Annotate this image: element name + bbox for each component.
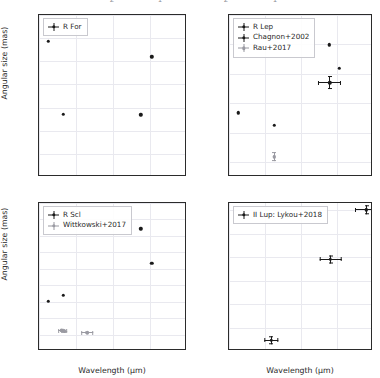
marker-dot <box>269 339 272 342</box>
data-point <box>329 82 330 83</box>
gridline-horizontal <box>229 15 371 16</box>
data-point <box>274 125 275 126</box>
gridline-horizontal <box>39 318 185 319</box>
y-axis-tick <box>38 61 39 62</box>
marker-dot <box>328 81 331 84</box>
cropped-tick-label: 1 <box>273 0 277 4</box>
data-point <box>339 68 340 69</box>
error-cap-bottom <box>329 262 333 263</box>
y-axis-tick <box>38 203 39 204</box>
legend-marker-icon <box>238 44 249 53</box>
y-axis-tick <box>38 219 39 220</box>
data-point <box>87 332 88 333</box>
gridline-horizontal <box>39 15 185 16</box>
data-point <box>274 156 275 157</box>
legend-r-for[interactable]: R For <box>43 18 88 36</box>
marker-dot <box>329 258 332 261</box>
legend-item[interactable]: Wittkowski+2017 <box>48 220 126 231</box>
x-axis-tick <box>150 349 151 350</box>
error-cap-left <box>355 208 356 212</box>
y-axis-tick <box>228 162 229 163</box>
data-point <box>140 228 141 229</box>
legend-item[interactable]: R For <box>48 22 82 33</box>
legend-item[interactable]: R Scl <box>48 210 126 221</box>
gridline-horizontal <box>39 108 185 109</box>
error-cap-top <box>329 255 333 256</box>
marker-dot <box>61 293 64 296</box>
y-axis-tick <box>38 84 39 85</box>
gridline-vertical <box>39 203 40 349</box>
x-axis-tick <box>113 349 114 350</box>
error-cap-right <box>92 331 93 335</box>
y-axis-tick <box>38 131 39 132</box>
y-axis-tick <box>228 304 229 305</box>
gridline-horizontal <box>39 252 185 253</box>
marker-dot <box>139 113 142 116</box>
legend-item[interactable]: R Lep <box>238 22 309 33</box>
gridline-horizontal <box>39 203 185 204</box>
legend-item[interactable]: Rau+2017 <box>238 43 309 54</box>
legend-item[interactable]: Chagnon+2002 <box>238 32 309 43</box>
gridline-vertical <box>150 203 151 349</box>
x-axis-tick <box>76 175 77 176</box>
y-axis-tick <box>228 328 229 329</box>
y-axis-tick <box>228 281 229 282</box>
gridline-horizontal <box>39 236 185 237</box>
plot-area-r-for: 510152025303540R For <box>38 14 186 176</box>
x-axis-tick <box>265 175 266 176</box>
y-axis-tick <box>228 44 229 45</box>
gridline-vertical <box>337 15 338 175</box>
error-cap-left <box>81 331 82 335</box>
y-axis-tick <box>38 318 39 319</box>
legend-label: R For <box>63 22 82 33</box>
legend-ii-lup[interactable]: II Lup: Lykou+2018 <box>233 206 328 224</box>
y-axis-tick <box>228 210 229 211</box>
gridline-horizontal <box>229 74 371 75</box>
legend-marker-icon <box>238 210 249 219</box>
gridline-horizontal <box>39 302 185 303</box>
x-axis-tick <box>113 175 114 176</box>
y-axis-tick <box>38 285 39 286</box>
marker-dot <box>47 40 50 43</box>
error-cap-left <box>264 338 265 342</box>
cropped-tick-label: 2 <box>224 0 228 4</box>
y-axis-tick <box>38 302 39 303</box>
marker-dot <box>61 112 64 115</box>
marker-dot <box>272 155 275 158</box>
gridline-horizontal <box>39 38 185 39</box>
legend-marker-icon <box>48 22 59 31</box>
error-cap-right <box>66 329 67 333</box>
panel-ii-lup: 3040506070809012345II Lup: Lykou+2018Wav… <box>228 202 372 350</box>
y-axis-tick <box>38 236 39 237</box>
data-point <box>140 114 141 115</box>
gridline-horizontal <box>229 328 371 329</box>
y-axis-tick <box>38 269 39 270</box>
data-point <box>48 301 49 302</box>
gridline-horizontal <box>39 154 185 155</box>
error-cap-left <box>318 81 319 85</box>
legend-label: Rau+2017 <box>253 43 291 54</box>
x-axis-tick <box>76 349 77 350</box>
x-axis-tick <box>39 175 40 176</box>
cropped-top-tick-labels: 2121 <box>0 0 380 7</box>
marker-dot <box>139 227 142 230</box>
legend-r-lep[interactable]: R LepChagnon+2002Rau+2017 <box>233 18 315 58</box>
y-axis-tick <box>38 154 39 155</box>
legend-r-scl[interactable]: R SclWittkowski+2017 <box>43 206 132 235</box>
marker-dot <box>338 67 341 70</box>
legend-label: Wittkowski+2017 <box>63 220 126 231</box>
y-axis-tick <box>228 74 229 75</box>
gridline-horizontal <box>229 234 371 235</box>
legend-marker-icon <box>238 22 249 31</box>
data-point <box>238 112 239 113</box>
error-cap-right <box>340 257 341 261</box>
marker-dot <box>150 262 153 265</box>
x-axis-tick <box>229 175 230 176</box>
error-cap-bottom <box>365 213 369 214</box>
error-cap-bottom <box>328 88 332 89</box>
gridline-horizontal <box>229 281 371 282</box>
plot-area-ii-lup: 3040506070809012345II Lup: Lykou+2018 <box>228 202 372 350</box>
data-point <box>330 259 331 260</box>
error-cap-top <box>365 206 369 207</box>
legend-item[interactable]: II Lup: Lykou+2018 <box>238 210 322 221</box>
